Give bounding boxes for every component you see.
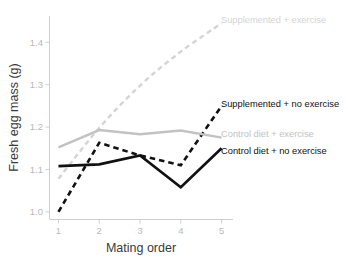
y-tick-label-1.2: 1.2 bbox=[30, 121, 43, 132]
y-tick-label-1.4: 1.4 bbox=[30, 37, 43, 48]
x-axis-ticks: 12345 bbox=[56, 220, 224, 237]
line-chart: 1.01.11.21.31.4 12345 Supplemented + exe… bbox=[0, 0, 348, 264]
x-axis-title: Mating order bbox=[106, 241, 176, 255]
y-axis-ticks: 1.01.11.21.31.4 bbox=[30, 37, 50, 218]
series-line-control-diet-exercise bbox=[58, 130, 221, 147]
series-labels-group: Supplemented + exerciseSupplemented + no… bbox=[221, 15, 339, 156]
series-line-supplemented-no-exercise bbox=[58, 106, 221, 212]
y-tick-label-1.3: 1.3 bbox=[30, 79, 43, 90]
series-label-control-diet-no-exercise: Control diet + no exercise bbox=[221, 146, 327, 156]
x-tick-label-5: 5 bbox=[219, 225, 224, 236]
series-label-control-diet-exercise: Control diet + exercise bbox=[221, 129, 314, 139]
series-label-supplemented-exercise: Supplemented + exercise bbox=[221, 15, 326, 25]
series-label-supplemented-no-exercise: Supplemented + no exercise bbox=[221, 99, 339, 109]
axes-group bbox=[50, 16, 234, 220]
x-tick-label-4: 4 bbox=[178, 225, 183, 236]
x-tick-label-3: 3 bbox=[137, 225, 142, 236]
series-line-control-diet-no-exercise bbox=[58, 148, 221, 187]
x-tick-label-1: 1 bbox=[56, 225, 61, 236]
y-tick-label-1.0: 1.0 bbox=[30, 206, 43, 217]
y-tick-label-1.1: 1.1 bbox=[30, 164, 43, 175]
chart-container: 1.01.11.21.31.4 12345 Supplemented + exe… bbox=[0, 0, 348, 264]
y-axis-title: Fresh egg mass (g) bbox=[7, 63, 21, 171]
x-tick-label-2: 2 bbox=[97, 225, 102, 236]
series-lines-group bbox=[58, 23, 221, 212]
